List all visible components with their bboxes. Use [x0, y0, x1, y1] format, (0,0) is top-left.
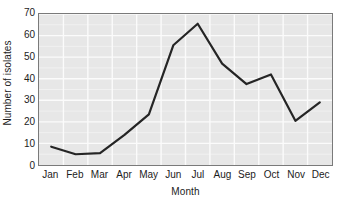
- y-tick-label: 20: [14, 117, 35, 127]
- x-axis-tick-labels: JanFebMarAprMayJunJulAugSepOctNovDec: [38, 168, 333, 182]
- data-series-line: [39, 14, 332, 165]
- y-axis-tick-labels: 010203040506070: [14, 13, 35, 166]
- y-tick-label: 10: [14, 139, 35, 149]
- line-chart: Number of isolates 010203040506070 JanFe…: [0, 0, 347, 207]
- y-tick-label: 40: [14, 74, 35, 84]
- y-tick-label: 50: [14, 52, 35, 62]
- y-tick-label: 70: [14, 8, 35, 18]
- x-axis-title: Month: [38, 186, 333, 197]
- y-tick-label: 60: [14, 30, 35, 40]
- y-tick-label: 30: [14, 95, 35, 105]
- y-axis-title: Number of isolates: [1, 0, 14, 166]
- plot-area: [38, 13, 333, 166]
- x-tick-label: Dec: [301, 168, 341, 181]
